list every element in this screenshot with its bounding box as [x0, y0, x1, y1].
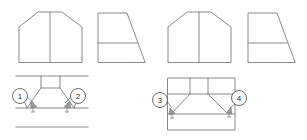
chamfer-arrow-3 — [169, 108, 175, 118]
technical-drawing-figure: 1 2 — [0, 0, 307, 140]
left-group-front-view — [19, 12, 82, 62]
callout-balloon-3[interactable]: 3 — [153, 93, 173, 109]
side-view-outline — [248, 13, 295, 62]
arrow-head-2 — [64, 101, 71, 108]
right-group: 3 4 — [153, 12, 296, 130]
front-view-outline — [19, 12, 82, 62]
callout-balloon-2[interactable]: 2 — [65, 89, 86, 104]
chamfer-arrow-4 — [227, 107, 233, 117]
plan-outer-rectangle — [168, 78, 235, 130]
callout-label-4: 4 — [237, 94, 242, 103]
callout-balloon-4[interactable]: 4 — [230, 91, 247, 109]
right-group-plan-view — [168, 78, 235, 130]
plan-left-chamfer-edge — [171, 94, 190, 114]
callout-label-2: 2 — [76, 92, 81, 101]
plan-neck-outline — [41, 76, 60, 88]
side-view-outline — [98, 13, 145, 62]
left-group-side-view — [98, 13, 145, 62]
arrow-head-1 — [31, 101, 38, 108]
drawing-canvas: 1 2 — [0, 0, 307, 140]
callout-label-3: 3 — [158, 96, 163, 105]
left-group: 1 2 — [13, 12, 146, 127]
right-group-side-view — [248, 13, 295, 62]
front-view-outline — [168, 12, 231, 62]
callout-label-1: 1 — [18, 92, 23, 101]
plan-right-chamfer-edge — [208, 94, 228, 114]
right-group-front-view — [168, 12, 231, 62]
